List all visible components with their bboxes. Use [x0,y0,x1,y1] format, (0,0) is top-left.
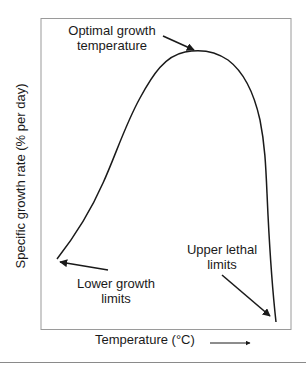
annotation-line: limits [181,257,263,272]
lower-growth-limits-annotation: Lower growth limits [70,276,162,306]
bottom-divider [0,362,306,363]
lower-limit-arrow-icon [60,262,108,270]
optimal-arrow-icon [163,36,194,50]
annotation-line: Lower growth [70,276,162,291]
annotation-line: limits [70,291,162,306]
upper-lethal-limits-annotation: Upper lethal limits [181,242,263,272]
y-axis-label: Specific growth rate (% per day) [13,84,28,269]
annotation-line: temperature [60,38,164,53]
diagram-canvas [0,0,306,368]
growth-temperature-diagram: Specific growth rate (% per day) Optimal… [0,0,306,368]
optimal-temperature-annotation: Optimal growth temperature [60,23,164,53]
annotation-line: Upper lethal [181,242,263,257]
upper-limit-arrow-icon [222,275,270,316]
x-axis-label: Temperature (°C) [95,332,195,348]
annotation-line: Optimal growth [60,23,164,38]
